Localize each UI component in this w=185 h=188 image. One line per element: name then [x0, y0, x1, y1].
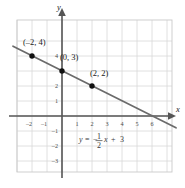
- equation-equals: =: [85, 135, 90, 144]
- equation-plus: +: [111, 135, 116, 144]
- y-tick-label: –3: [51, 157, 58, 164]
- y-tick-label: –1: [51, 127, 58, 134]
- point-label-a: (–2, 4): [23, 37, 46, 47]
- y-tick-label: –2: [51, 142, 58, 149]
- x-tick-label: 3: [105, 120, 108, 127]
- x-tick-labels: –2 –1 1 2 3 4 5 6: [25, 120, 154, 127]
- equation-lhs: y: [78, 135, 83, 144]
- equation-fraction-denominator: 2: [97, 141, 101, 150]
- x-tick-label: 1: [75, 120, 78, 127]
- x-tick-label: –1: [40, 120, 47, 127]
- graph-figure: (–2, 4) (0, 3) (2, 2) –2 –1 1 2 3 4 5 6 …: [0, 0, 185, 188]
- point-label-b: (0, 3): [60, 52, 79, 62]
- y-tick-label: 1: [55, 97, 58, 104]
- data-point-marker: [29, 53, 34, 58]
- data-point-marker: [59, 68, 64, 73]
- data-point-marker: [89, 83, 94, 88]
- x-tick-label: 6: [150, 120, 153, 127]
- x-tick-label: 2: [90, 120, 93, 127]
- y-tick-label: 4: [55, 52, 58, 59]
- x-tick-label: 5: [135, 120, 138, 127]
- y-axis-label: y: [56, 2, 61, 12]
- x-tick-label: –2: [25, 120, 32, 127]
- coordinate-plane-svg: (–2, 4) (0, 3) (2, 2) –2 –1 1 2 3 4 5 6 …: [0, 0, 185, 188]
- x-tick-label: 4: [120, 120, 123, 127]
- axes-group: [9, 8, 176, 178]
- equation-constant: 3: [120, 135, 124, 144]
- equation-variable: x: [103, 135, 108, 144]
- y-tick-label: 2: [55, 82, 58, 89]
- equation-annotation: y = − 1 2 x + 3: [78, 132, 124, 150]
- x-axis-label: x: [175, 104, 180, 114]
- point-label-c: (2, 2): [90, 68, 109, 78]
